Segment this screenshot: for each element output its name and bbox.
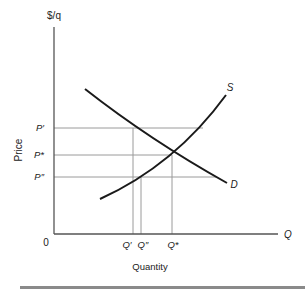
- y-axis-title: Price: [13, 138, 24, 161]
- supply-label: S: [227, 82, 234, 93]
- x-axis-title: Quantity: [132, 261, 168, 272]
- p-star-tick-label: P*: [34, 149, 44, 160]
- x-axis-end-label: Q: [284, 229, 292, 240]
- q-double-prime-tick-label: Q″: [138, 239, 149, 250]
- supply-curve: [100, 95, 226, 199]
- demand-label: D: [230, 179, 237, 190]
- supply-demand-chart: $/q Price 0 Q Quantity S D P′ P* P″ Q′ Q…: [0, 0, 305, 290]
- q-prime-tick-label: Q′: [122, 239, 132, 250]
- q-star-tick-label: Q*: [167, 239, 178, 250]
- y-unit-label: $/q: [47, 10, 61, 21]
- bottom-rule: [20, 286, 305, 289]
- p-prime-tick-label: P′: [36, 122, 45, 133]
- origin-label: 0: [43, 237, 49, 248]
- p-double-prime-tick-label: P″: [34, 171, 44, 182]
- axes: [54, 27, 278, 234]
- demand-curve: [85, 89, 227, 183]
